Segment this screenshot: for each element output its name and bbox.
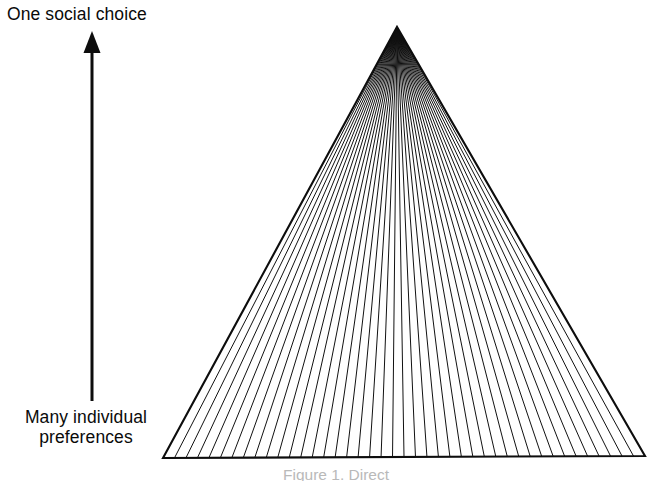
ray-line (209, 27, 397, 458)
bottom-label-line-1: Many individual (25, 407, 147, 427)
figure-caption: Figure 1. Direct (0, 469, 672, 481)
caption-clip: Figure 1. Direct (0, 469, 672, 481)
ray-line (397, 27, 588, 456)
ray-line (301, 27, 397, 457)
ray-line (397, 27, 599, 456)
upward-arrow-icon (84, 31, 101, 401)
ray-fan-group (174, 27, 633, 458)
ray-line (197, 27, 397, 458)
top-label-one-social-choice: One social choice (7, 5, 147, 25)
ray-line (397, 27, 553, 456)
ray-line (397, 27, 530, 456)
ray-line (186, 27, 397, 458)
ray-line (397, 27, 622, 456)
ray-line (397, 27, 519, 457)
ray-line (335, 27, 397, 457)
ray-line (397, 27, 484, 457)
ray-line (289, 27, 397, 457)
bottom-label-many-individual-preferences: Many individualpreferences (0, 408, 172, 447)
triangle-outline (163, 27, 645, 458)
arrow-head (84, 31, 101, 53)
figure-container: One social choice Many individualprefere… (0, 0, 672, 481)
ray-line (324, 27, 397, 457)
ray-line (220, 27, 397, 458)
bottom-label-line-2: preferences (0, 428, 172, 448)
ray-line (255, 27, 397, 458)
ray-line (278, 27, 397, 458)
